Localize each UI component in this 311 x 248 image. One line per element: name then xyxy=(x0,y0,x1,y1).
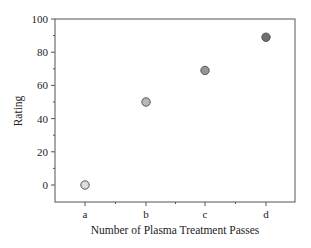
data-points xyxy=(81,33,270,189)
x-tick-label: d xyxy=(263,208,269,220)
data-point xyxy=(81,181,89,189)
x-tick-label: c xyxy=(203,208,208,220)
x-axis: abcd xyxy=(83,202,270,220)
data-point xyxy=(201,66,209,74)
data-point xyxy=(142,98,150,106)
x-tick-label: a xyxy=(83,208,88,220)
y-tick-label: 0 xyxy=(43,179,49,191)
x-axis-label: Number of Plasma Treatment Passes xyxy=(91,224,260,236)
data-point xyxy=(262,33,270,41)
x-tick-label: b xyxy=(143,208,149,220)
y-tick-label: 40 xyxy=(37,113,49,125)
scatter-chart: 020406080100 abcd Number of Plasma Treat… xyxy=(0,0,311,248)
y-tick-label: 20 xyxy=(37,146,49,158)
y-axis-label: Rating xyxy=(12,95,25,126)
y-tick-label: 80 xyxy=(37,46,49,58)
y-tick-label: 100 xyxy=(32,13,49,25)
y-axis: 020406080100 xyxy=(32,13,56,191)
plot-frame xyxy=(55,19,295,202)
y-tick-label: 60 xyxy=(37,79,49,91)
